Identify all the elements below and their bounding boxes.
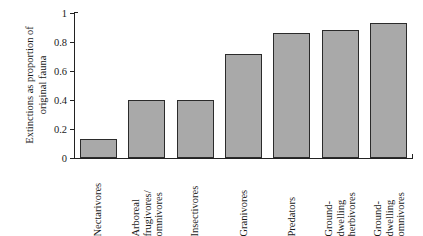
extinction-proportion-bar-chart: Extinctions as proportion of original fa… <box>0 0 423 236</box>
y-axis-title-line-2: original fauna <box>36 26 49 144</box>
bar <box>273 33 310 158</box>
y-axis-line <box>74 12 75 159</box>
x-axis-category-label-line: frugivores/ <box>141 190 153 236</box>
x-axis-category-label-line: herbivores <box>346 192 358 236</box>
bar <box>225 54 262 158</box>
x-axis-end-cap <box>412 154 413 159</box>
x-axis-category-label: Arborealfrugivores/omnivores <box>123 162 171 236</box>
x-axis-category-label-line: dwelling <box>335 192 347 236</box>
x-axis-category-label: Ground-dwellingherbivores <box>316 162 364 236</box>
bar <box>177 100 214 158</box>
y-axis-tick-label: 0.8 <box>54 37 67 48</box>
y-axis-tick-label: 0.4 <box>54 95 67 106</box>
x-axis-category-label-line: Nectarivores <box>92 182 104 236</box>
y-axis-top-cap <box>74 12 78 13</box>
y-axis-title: Extinctions as proportion of original fa… <box>14 0 58 170</box>
y-axis-tick-label: 1 <box>62 8 67 19</box>
x-axis-category-label-line: Granivores <box>238 189 250 236</box>
x-axis-category-label-line: omnivores <box>395 192 407 236</box>
x-axis-category-label-line: Predators <box>286 196 298 236</box>
bar <box>80 139 117 158</box>
x-axis-line <box>74 158 413 159</box>
x-axis-category-label: Granivores <box>220 162 268 236</box>
x-axis-category-label-line: omnivores <box>152 190 164 236</box>
y-axis-tick-label: 0.2 <box>54 124 67 135</box>
x-axis-category-label-line: Ground- <box>323 192 335 236</box>
x-axis-category-label: Insectivores <box>171 162 219 236</box>
bar <box>370 23 407 158</box>
y-axis-tick-mark <box>70 71 74 72</box>
y-axis-title-line-1: Extinctions as proportion of <box>24 26 37 144</box>
x-axis-category-label-line: Insectivores <box>189 185 201 236</box>
x-axis-category-label: Ground-dwellingomnivores <box>365 162 413 236</box>
y-axis-tick-mark <box>70 129 74 130</box>
y-axis-tick-label: 0 <box>62 153 67 164</box>
x-axis-category-label: Nectarivores <box>74 162 122 236</box>
bar <box>128 100 165 158</box>
x-axis-category-label-line: Arboreal <box>129 190 141 236</box>
y-axis-tick-label: 0.6 <box>54 66 67 77</box>
x-axis-category-label: Predators <box>268 162 316 236</box>
y-axis-tick-mark <box>70 13 74 14</box>
plot-area: 00.20.40.60.81 <box>74 12 413 159</box>
bar <box>322 30 359 158</box>
y-axis-tick-mark <box>70 158 74 159</box>
y-axis-tick-mark <box>70 100 74 101</box>
x-axis-category-label-line: dwelling <box>383 192 395 236</box>
y-axis-tick-mark <box>70 42 74 43</box>
x-axis-category-label-line: Ground- <box>372 192 384 236</box>
